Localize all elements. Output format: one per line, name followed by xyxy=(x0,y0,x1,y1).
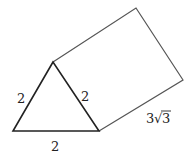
left-side-label: 2 xyxy=(17,91,25,106)
right-side-label: 2 xyxy=(81,89,89,104)
base-label: 2 xyxy=(51,139,59,154)
length-label: 3 √ 3 xyxy=(146,111,171,126)
prism-diagram: 2 2 2 3 √ 3 xyxy=(0,0,196,155)
length-radicand: 3 xyxy=(162,111,170,126)
